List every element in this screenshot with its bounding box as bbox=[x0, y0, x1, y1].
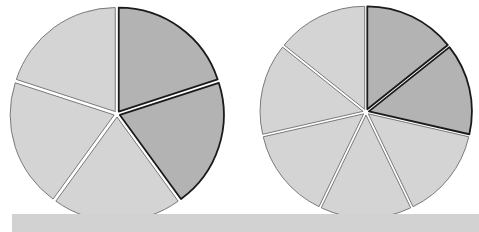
pie-fifths bbox=[10, 8, 224, 221]
fraction-diagram bbox=[0, 0, 479, 232]
pie-sevenths bbox=[260, 6, 472, 218]
bottom-bar bbox=[12, 214, 479, 232]
